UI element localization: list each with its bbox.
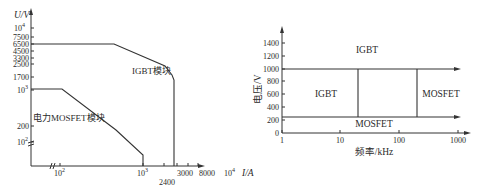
right-x-axis-label: 频率/kHz [355,146,393,157]
svg-text:200: 200 [17,122,29,131]
svg-text:3000: 3000 [177,169,193,178]
svg-text:0: 0 [275,129,279,138]
right-x-tick-labels: 1 10 100 1000 [280,136,466,145]
svg-text:10: 10 [336,136,344,145]
svg-text:2500: 2500 [13,60,29,69]
svg-text:1400: 1400 [263,39,279,48]
right-y-arrow-icon [280,26,284,33]
svg-text:400: 400 [267,103,279,112]
right-x-arrow-icon [464,131,471,135]
svg-text:104: 104 [224,167,235,178]
svg-text:1700: 1700 [13,73,29,82]
region-mosfet-bottom: MOSFET [355,119,393,129]
svg-text:102: 102 [17,136,28,147]
left-x-arrow-icon [198,164,205,168]
mosfet-module-curve [31,89,143,166]
right-chart: 0 200 400 600 800 1000 1200 1400 电压/V 1 … [252,26,471,157]
left-y-tick-labels: 104 7500 6500 4500 3300 2500 1700 103 20… [13,22,29,147]
svg-text:1000: 1000 [263,65,279,74]
svg-text:2400: 2400 [159,178,175,187]
svg-text:103: 103 [17,84,28,95]
region-igbt-top: IGBT [356,45,378,55]
left-y-arrow-icon [29,8,33,15]
left-y-axis-label: U/V [14,10,31,20]
boundary-250v-arrow-icon [454,115,461,119]
svg-text:8000: 8000 [199,169,215,178]
svg-text:100: 100 [393,136,405,145]
svg-text:600: 600 [267,90,279,99]
left-chart: 104 7500 6500 4500 3300 2500 1700 103 20… [13,8,254,187]
left-x-axis-label: I/A [241,168,254,178]
svg-text:1000: 1000 [450,136,466,145]
figure-canvas: 104 7500 6500 4500 3300 2500 1700 103 20… [0,0,482,195]
svg-text:1: 1 [280,136,284,145]
svg-text:104: 104 [14,22,25,33]
svg-text:200: 200 [267,116,279,125]
svg-text:1200: 1200 [263,52,279,61]
right-y-axis-label: 电压/V [252,74,263,104]
right-y-tick-labels: 0 200 400 600 800 1000 1200 1400 [263,39,279,138]
region-igbt-left: IGBT [315,89,337,99]
svg-text:103: 103 [137,167,148,178]
mosfet-module-label: 电力MOSFET模块 [33,112,105,123]
igbt-module-curve [31,44,174,166]
region-mosfet-right: MOSFET [422,89,460,99]
igbt-module-label: IGBT模块 [132,65,171,76]
svg-text:102: 102 [54,167,65,178]
left-x-tick-labels: 102 103 2400 3000 8000 104 [54,167,235,187]
boundary-1000v-arrow-icon [454,67,461,71]
svg-text:800: 800 [267,77,279,86]
